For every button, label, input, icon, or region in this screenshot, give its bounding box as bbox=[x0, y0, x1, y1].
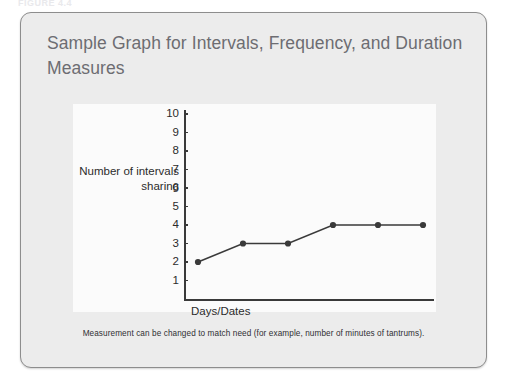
line-chart: Number of intervals sharing 10987654321 … bbox=[73, 104, 436, 312]
series-plot bbox=[73, 104, 436, 312]
data-point bbox=[330, 222, 336, 228]
data-point bbox=[240, 240, 246, 246]
figure-label: FIGURE 4.4 bbox=[18, 0, 72, 6]
x-axis-title: Days/Dates bbox=[191, 305, 250, 317]
data-point bbox=[195, 259, 201, 265]
data-point bbox=[375, 222, 381, 228]
figure-caption: Measurement can be changed to match need… bbox=[21, 329, 486, 338]
data-point bbox=[420, 222, 426, 228]
chart-panel: Number of intervals sharing 10987654321 … bbox=[73, 104, 436, 312]
figure-card: Sample Graph for Intervals, Frequency, a… bbox=[20, 12, 487, 368]
figure-title: Sample Graph for Intervals, Frequency, a… bbox=[47, 31, 467, 81]
data-point bbox=[285, 240, 291, 246]
series-line bbox=[198, 225, 423, 262]
